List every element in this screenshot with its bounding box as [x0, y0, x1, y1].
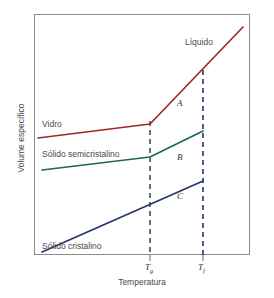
y-axis-title: Volume específico — [16, 73, 26, 203]
x-tick-label-tf: Tf — [198, 263, 205, 274]
x-axis-title: Temperatura — [34, 277, 250, 287]
series-label-solido-cristalino: Sólido cristalino — [42, 242, 102, 251]
segment-annotation-b: B — [177, 153, 183, 162]
chart-figure: Líquido Vidro Sólido semicristalino Sóli… — [0, 0, 274, 298]
series-label-vidro: Vidro — [42, 120, 62, 129]
series-label-solido-semicristalino: Sólido semicristalino — [42, 150, 119, 159]
plot-frame — [34, 14, 250, 255]
segment-annotation-a: A — [177, 99, 183, 108]
x-tick-label-tf-sub: f — [203, 267, 205, 274]
series-label-liquido: Líquido — [185, 38, 213, 47]
x-tick-label-tg-sub: g — [150, 267, 153, 274]
segment-annotation-c: C — [177, 192, 183, 201]
x-tick-label-tg: Tg — [145, 263, 153, 274]
